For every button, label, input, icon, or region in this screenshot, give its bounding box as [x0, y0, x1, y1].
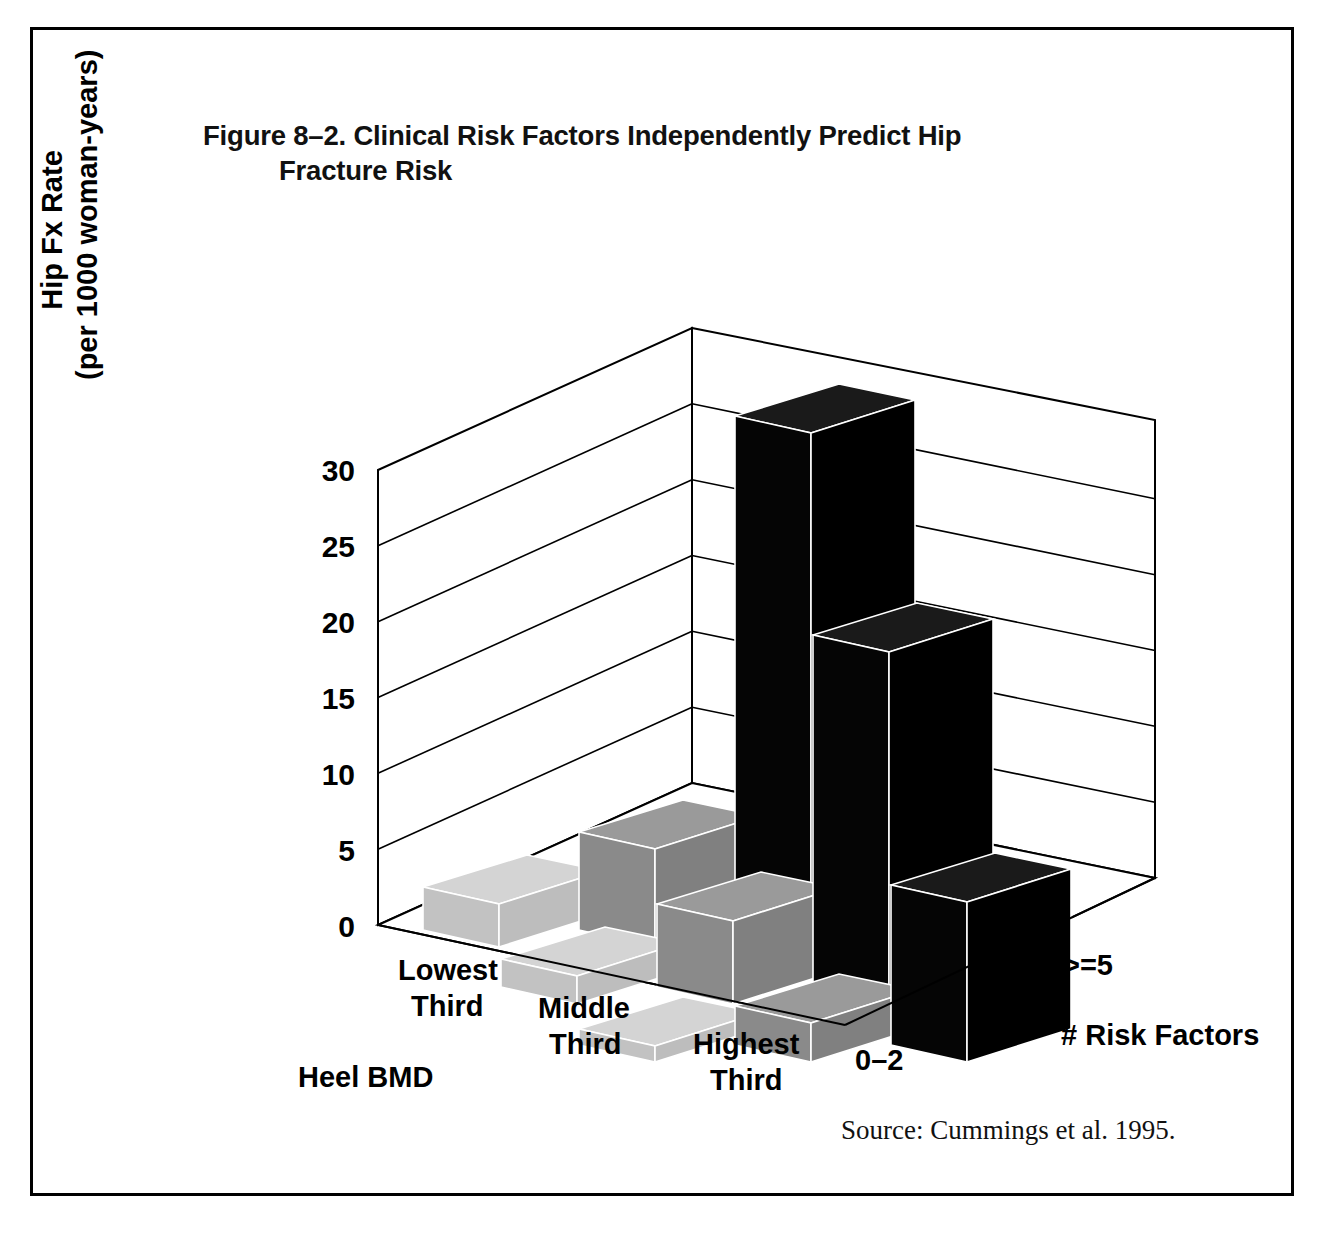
y-tick-15: 15 [322, 682, 355, 715]
risk-label-0-2: 0–2 [855, 1044, 903, 1076]
y-tick-0: 0 [338, 910, 355, 943]
figure-title-line-1: Figure 8–2. Clinical Risk Factors Indepe… [203, 120, 961, 151]
risk-factors-axis-title: # Risk Factors [1061, 1019, 1259, 1051]
y-axis-title-line-1: Hip Fx Rate [36, 150, 68, 310]
y-axis-tick-labels: 30 25 20 15 10 5 0 [322, 454, 355, 943]
heel-bmd-middle-line1: Middle [538, 992, 630, 1024]
risk-label-ge5: >=5 [1063, 949, 1113, 981]
page-title: Figure 8–2. Clinical Risk Factors Indepe… [203, 118, 1103, 188]
heel-bmd-lowest-line2: Third [411, 990, 484, 1022]
y-tick-30: 30 [322, 454, 355, 487]
y-tick-10: 10 [322, 758, 355, 791]
heel-bmd-highest-line1: Highest [693, 1028, 800, 1060]
chart-canvas: 30 25 20 15 10 5 0 Lowest Third Middle T… [183, 290, 1303, 1100]
heel-bmd-middle-line2: Third [549, 1028, 622, 1060]
figure-page: Figure 8–2. Clinical Risk Factors Indepe… [0, 0, 1327, 1234]
source-note: Source: Cummings et al. 1995. [841, 1115, 1175, 1146]
y-axis-title: Hip Fx Rate (per 1000 woman-years) [35, 80, 106, 380]
heel-bmd-highest-line2: Third [710, 1064, 783, 1096]
bar-chart-3d: 30 25 20 15 10 5 0 Lowest Third Middle T… [183, 290, 1303, 1100]
figure-frame: Figure 8–2. Clinical Risk Factors Indepe… [30, 27, 1294, 1196]
y-tick-25: 25 [322, 530, 355, 563]
heel-bmd-axis-title: Heel BMD [298, 1061, 433, 1093]
bar-highest-third-ge5 [891, 853, 1071, 1062]
risk-label-3-4: 3–4 [968, 997, 1016, 1029]
y-tick-20: 20 [322, 606, 355, 639]
y-axis-title-line-2: (per 1000 woman-years) [70, 80, 105, 380]
y-tick-5: 5 [338, 834, 355, 867]
heel-bmd-lowest-line1: Lowest [398, 954, 498, 986]
figure-title-line-2: Fracture Risk [279, 153, 1103, 188]
